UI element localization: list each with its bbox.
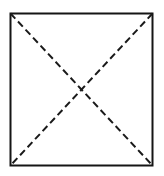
square-with-dashed-diagonals-diagram xyxy=(0,0,164,176)
figure-canvas xyxy=(0,0,164,176)
